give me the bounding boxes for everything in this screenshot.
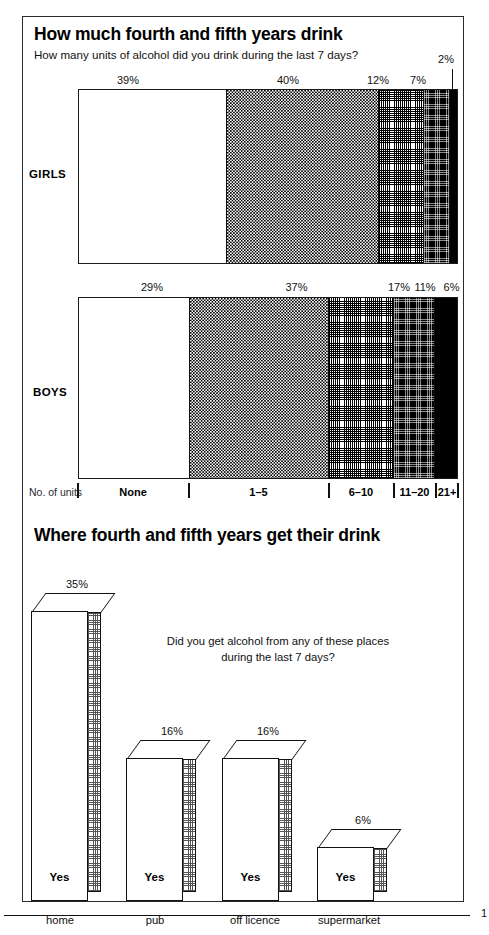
bar3d-pub-side: [182, 749, 196, 892]
row-label-girls: GIRLS: [29, 168, 66, 180]
section-how-much-they-drink: How much fourth and fifth years drink Ho…: [23, 17, 465, 499]
boys-pct-1-5: 37%: [226, 281, 367, 293]
section-bottom-title: Where fourth and fifth years get their d…: [34, 525, 380, 546]
stacked-bar-boys: [78, 297, 458, 479]
girls-pct-21-plus: 2%: [428, 53, 464, 65]
bar3d-home-side: [87, 602, 101, 892]
boys-pct-21-plus: 6%: [434, 281, 469, 293]
section-top-title: How much fourth and fifth years drink: [34, 24, 343, 45]
boys-pct-none: 29%: [78, 281, 226, 293]
bar3d-supermarket-value-label: Yes: [317, 871, 374, 883]
page-number: 1: [481, 907, 487, 919]
girls-segment-11-20: [423, 90, 449, 263]
units-label-6-10: 6–10: [330, 486, 392, 498]
bar3d-pub-top: [126, 740, 211, 760]
bar3d-off-licence-side: [278, 749, 292, 892]
boys-segment-21-plus: [434, 298, 457, 478]
section-top-question: How many units of alcohol did you drink …: [34, 48, 358, 61]
footer-divider: [4, 915, 470, 916]
girls-pct-1-5: 40%: [238, 74, 338, 86]
girls-segment-21-plus: [449, 90, 457, 263]
girls-21plus-leader-line: [452, 69, 453, 89]
section-bottom-question-line1: Did you get alcohol from any of these pl…: [153, 633, 403, 649]
stacked-bar-girls: [78, 89, 458, 264]
girls-pct-11-20: 7%: [400, 74, 436, 86]
girls-pct-6-10: 12%: [356, 74, 400, 86]
units-label-1-5: 1–5: [190, 486, 327, 498]
section-bottom-question: Did you get alcohol from any of these pl…: [153, 633, 403, 665]
bar3d-home: Yes: [31, 593, 111, 901]
units-axis-caption: No. of units: [29, 486, 82, 498]
boys-segment-1-5: [189, 298, 329, 478]
units-tick-5: [457, 483, 459, 498]
section-bottom-question-line2: during the last 7 days?: [153, 649, 403, 665]
bar3d-home-value-label: Yes: [31, 871, 88, 883]
bar3d-off-licence: Yes: [222, 740, 302, 901]
girls-segment-none: [79, 90, 226, 263]
section-where-they-get-drink: Where fourth and fifth years get their d…: [23, 525, 465, 901]
boys-segment-11-20: [393, 298, 435, 478]
bar3d-supermarket: Yes: [317, 829, 397, 901]
boys-segment-none: [79, 298, 189, 478]
units-label-11-20: 11–20: [395, 486, 434, 498]
units-label-none: None: [79, 486, 187, 498]
bar3d-home-top: [31, 593, 116, 613]
bar3d-off-licence-value-label: Yes: [222, 871, 279, 883]
bar3d-home-front: [31, 611, 88, 901]
report-page-frame: How much fourth and fifth years drink Ho…: [22, 16, 464, 902]
girls-pct-none: 39%: [78, 74, 178, 86]
bar3d-supermarket-top: [317, 829, 402, 849]
bar3d-pct-off-licence: 16%: [228, 725, 308, 737]
bar3d-pub: Yes: [126, 740, 206, 901]
bar3d-off-licence-top: [222, 740, 307, 760]
girls-segment-6-10: [378, 90, 423, 263]
units-axis: No. of units None 1–5 6–10 11–20 21+: [23, 483, 465, 503]
bar3d-pub-value-label: Yes: [126, 871, 183, 883]
bar3d-pct-home: 35%: [37, 578, 117, 590]
units-label-21-plus: 21+: [437, 486, 457, 498]
row-label-boys: BOYS: [33, 386, 67, 398]
bar3d-pct-pub: 16%: [132, 725, 212, 737]
bar3d-pct-supermarket: 6%: [323, 814, 403, 826]
boys-segment-6-10: [328, 298, 392, 478]
girls-segment-1-5: [226, 90, 377, 263]
